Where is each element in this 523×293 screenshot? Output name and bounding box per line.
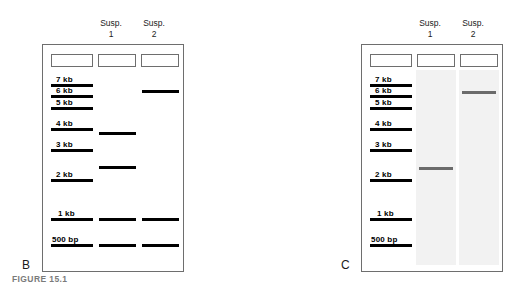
panel-b-header-susp-1-line1: Susp. [100, 18, 122, 28]
panel-b-letter: B [22, 258, 30, 272]
panel-b-susp-1-band-1kb [99, 218, 136, 221]
panel-b-ladder-band-1kb [51, 218, 93, 221]
panel-c-header-susp-2-line1: Susp. [462, 18, 484, 28]
panel-b-ladder-label-2kb: 2 kb [56, 170, 73, 179]
panel-b-ladder-label-500bp: 500 bp [52, 235, 79, 244]
panel-b-ladder-band-4kb [51, 128, 93, 131]
panel-c-lane-shade-susp-2 [459, 70, 499, 265]
panel-c-ladder-label-500bp: 500 bp [371, 235, 398, 244]
panel-b-ladder-label-4kb: 4 kb [56, 119, 73, 128]
figure-15-1: Susp. 1 Susp. 2 7 kb 6 kb 5 kb 4 kb 3 kb… [0, 0, 523, 293]
figure-caption: FIGURE 15.1 [12, 274, 67, 284]
panel-b-header-susp-1-line2: 1 [88, 29, 134, 40]
panel-c-ladder-label-7kb: 7 kb [375, 75, 392, 84]
panel-c-susp-2-band-6kb [462, 91, 496, 94]
panel-c-header-susp-1: Susp. 1 [407, 18, 453, 40]
panel-b-gel-diagram: 7 kb 6 kb 5 kb 4 kb 3 kb 2 kb 1 kb 500 b… [42, 44, 184, 272]
panel-b-ladder-band-2kb [51, 179, 93, 182]
panel-b-ladder-band-500bp [51, 244, 93, 247]
panel-c-ladder-band-5kb [370, 107, 412, 110]
panel-c-ladder-label-2kb: 2 kb [375, 170, 392, 179]
panel-c-header-susp-1-line1: Susp. [419, 18, 441, 28]
panel-b-susp-1-band-2-5kb [99, 166, 136, 169]
panel-b-header-susp-1: Susp. 1 [88, 18, 134, 40]
panel-b-well-susp-2 [141, 54, 179, 67]
panel-b-ladder-label-6kb: 6 kb [56, 86, 73, 95]
panel-b-susp-1-band-4kb [99, 132, 136, 135]
panel-c-letter: C [341, 258, 350, 272]
panel-b-susp-1-band-500bp [99, 244, 136, 247]
panel-b-susp-2-band-500bp [142, 244, 179, 247]
panel-c-susp-1-band-2-3kb [419, 167, 453, 170]
panel-b-header-susp-2: Susp. 2 [131, 18, 177, 40]
panel-b-header-susp-2-line1: Susp. [143, 18, 165, 28]
panel-b-ladder-band-3kb [51, 149, 93, 152]
panel-c-gel-photograph: 7 kb 6 kb 5 kb 4 kb 3 kb 2 kb 1 kb 500 b… [361, 44, 503, 272]
panel-c-header-susp-2-line2: 2 [450, 29, 496, 40]
panel-b-susp-2-band-1kb [142, 218, 179, 221]
panel-c-header-susp-2: Susp. 2 [450, 18, 496, 40]
panel-c-well-susp-1 [417, 54, 455, 67]
panel-c-ladder-band-2kb [370, 179, 412, 182]
panel-c-ladder-label-3kb: 3 kb [375, 140, 392, 149]
panel-c-well-susp-2 [460, 54, 498, 67]
panel-c-ladder-label-1kb: 1 kb [377, 209, 394, 218]
panel-b-header-susp-2-line2: 2 [131, 29, 177, 40]
panel-c-ladder-label-5kb: 5 kb [375, 98, 392, 107]
panel-b-well-ladder [51, 54, 93, 67]
panel-c-ladder-label-6kb: 6 kb [375, 86, 392, 95]
panel-c-ladder-band-500bp [370, 244, 412, 247]
panel-b-well-susp-1 [98, 54, 136, 67]
panel-b-ladder-label-5kb: 5 kb [56, 98, 73, 107]
panel-c-header-susp-1-line2: 1 [407, 29, 453, 40]
panel-b-ladder-label-1kb: 1 kb [58, 209, 75, 218]
panel-c-well-ladder [370, 54, 412, 67]
panel-b-ladder-label-7kb: 7 kb [56, 75, 73, 84]
panel-c-ladder-band-1kb [370, 218, 412, 221]
panel-b-ladder-label-3kb: 3 kb [56, 140, 73, 149]
panel-b-susp-2-band-6kb [142, 90, 179, 93]
panel-b-ladder-band-5kb [51, 107, 93, 110]
panel-c-ladder-band-3kb [370, 149, 412, 152]
panel-c-ladder-band-4kb [370, 128, 412, 131]
panel-c-ladder-label-4kb: 4 kb [375, 119, 392, 128]
